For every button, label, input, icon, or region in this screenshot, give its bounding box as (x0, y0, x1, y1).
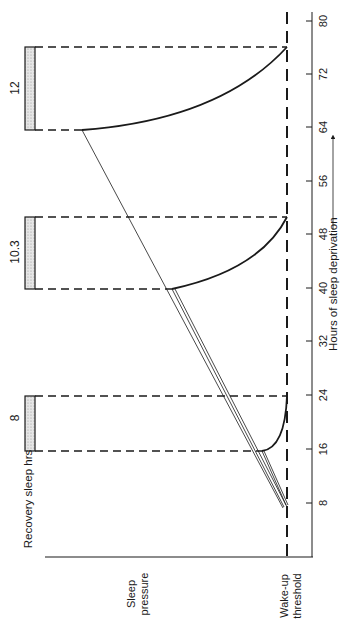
tick-label-80: 80 (317, 6, 329, 36)
bar-label-10-3: 10.3 (9, 234, 21, 270)
wakeup-threshold-label: Wake-up threshold (278, 567, 304, 620)
recovery-curve-2 (172, 217, 287, 289)
recovery-curve-3 (82, 47, 287, 130)
tick-label-64: 64 (317, 112, 329, 142)
recovery-bar-8 (25, 396, 35, 451)
sleep-pressure-line-1: Sleep (125, 580, 137, 608)
tick-label-16: 16 (317, 434, 329, 464)
tick-label-8: 8 (317, 488, 329, 518)
tick-label-72: 72 (317, 59, 329, 89)
recovery-sleep-label: Recovery sleep hrs (22, 444, 34, 554)
recovery-bar-12 (25, 47, 35, 130)
recovery-bar-10-3 (25, 217, 35, 289)
hour-ticks (306, 21, 312, 503)
bar-label-8: 8 (9, 403, 21, 433)
diagram-canvas (0, 0, 348, 620)
sleep-pressure-line-2: pressure (138, 573, 150, 616)
sleep-pressure-label: Sleep pressure (125, 569, 151, 619)
wakeup-line-1: Wake-up (278, 574, 290, 618)
bar-label-12: 12 (9, 73, 21, 103)
tick-label-24: 24 (317, 380, 329, 410)
tick-label-56: 56 (317, 166, 329, 196)
bar-guides (35, 47, 287, 451)
sleep-pressure-diagram: 8 16 24 32 40 48 56 64 72 80 Hours of sl… (0, 0, 348, 620)
x-axis-title: Hours of sleep deprivation (327, 225, 339, 351)
recovery-curve-1 (262, 396, 287, 451)
recovery-curves (82, 47, 287, 451)
wakeup-line-2: threshold (291, 573, 303, 618)
